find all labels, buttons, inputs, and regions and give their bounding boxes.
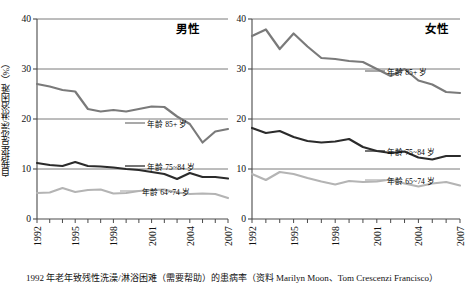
- plot-area-male: [0, 0, 232, 262]
- y-tick-label: 30: [9, 63, 31, 74]
- y-tick-label: 20: [9, 113, 31, 124]
- series-line-1: [37, 162, 228, 179]
- x-tick-label: 1995: [289, 226, 300, 246]
- x-tick-label: 2004: [413, 226, 424, 246]
- x-tick-label: 1992: [32, 226, 43, 246]
- x-tick-label: 1998: [330, 226, 341, 246]
- x-tick-label: 1995: [70, 226, 81, 246]
- series-line-2: [37, 188, 228, 198]
- x-tick-label: 1992: [247, 226, 258, 246]
- series-label-age6574: 年龄 65~74 岁: [387, 175, 435, 186]
- series-line-0: [252, 30, 460, 94]
- x-tick-label: 2004: [185, 226, 196, 246]
- x-tick-label: 2007: [223, 226, 234, 246]
- x-tick-label: 2001: [372, 226, 383, 246]
- y-tick-label: 0: [9, 213, 31, 224]
- series-label-age6474: 年龄 64~74 岁: [142, 186, 190, 197]
- series-label-age7584: 年龄 75~84 岁: [387, 146, 435, 157]
- x-tick-label: 2001: [147, 226, 158, 246]
- plot-area-female: [232, 0, 464, 262]
- series-label-age85: 年龄 85+ 岁: [147, 118, 187, 129]
- figure-caption: 1992 年老年致残性洗澡/淋浴困难（需要帮助）的患病率（资料 Marilyn …: [0, 271, 464, 284]
- series-line-0: [37, 84, 228, 143]
- series-label-age85: 年龄 85+ 岁: [387, 66, 427, 77]
- panel-title-female: 女性: [425, 20, 448, 36]
- y-tick-label: 10: [9, 163, 31, 174]
- x-tick-label: 1998: [108, 226, 119, 246]
- x-tick-label: 2007: [455, 226, 466, 246]
- series-label-age7584: 年龄 75~84 岁: [147, 161, 195, 172]
- panel-title-male: 男性: [176, 20, 199, 36]
- chart-panel-female: [232, 0, 464, 262]
- y-tick-label: 0: [224, 213, 246, 224]
- y-tick-label: 20: [224, 113, 246, 124]
- chart-panel-male: [0, 0, 232, 262]
- y-tick-label: 10: [224, 163, 246, 174]
- y-tick-label: 40: [9, 13, 31, 24]
- y-tick-label: 30: [224, 63, 246, 74]
- y-tick-label: 40: [224, 13, 246, 24]
